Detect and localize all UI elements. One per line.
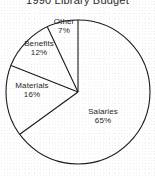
slice-name-other: Other	[54, 17, 75, 26]
slice-value-benefits: 12%	[16, 48, 62, 57]
slice-name-salaries: Salaries	[88, 107, 118, 116]
pie-chart-figure: 1990 Library Budget Other 7% Benefits 12…	[0, 0, 155, 176]
slice-name-benefits: Benefits	[24, 39, 54, 48]
slice-value-materials: 16%	[6, 90, 58, 99]
pie-slice-label-benefits: Benefits 12%	[16, 39, 62, 57]
slice-value-salaries: 65%	[77, 116, 129, 125]
pie-slice-label-salaries: Salaries 65%	[77, 107, 129, 125]
slice-name-materials: Materials	[15, 81, 48, 90]
slice-value-other: 7%	[47, 26, 81, 35]
pie-slice-label-materials: Materials 16%	[6, 81, 58, 99]
pie-slice-label-other: Other 7%	[47, 17, 81, 35]
